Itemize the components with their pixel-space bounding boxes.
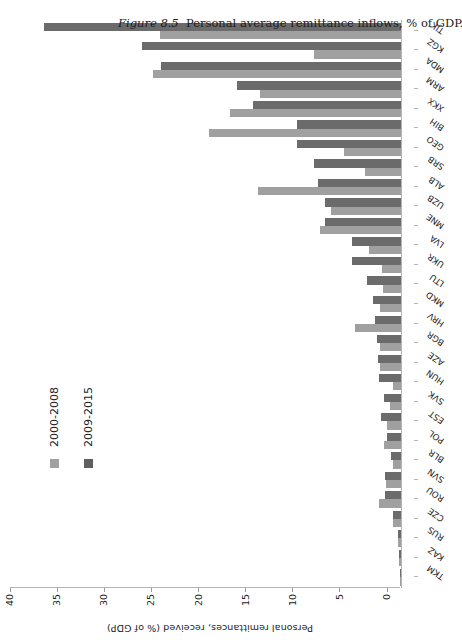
bar-HRV-2000-2008 bbox=[355, 324, 401, 332]
bar-MKD-2009-2015 bbox=[373, 296, 401, 304]
bar-POL-2009-2015 bbox=[387, 433, 401, 441]
x-tick-HRV bbox=[414, 323, 418, 324]
bar-group bbox=[24, 275, 401, 295]
axes: 0510152025303540 TKMKAZRUSCZEROUSVNBLRPO… bbox=[10, 18, 414, 618]
figure-caption-body: Personal average remittance inflows, % o… bbox=[186, 16, 462, 30]
y-axis-ticks: 0510152025303540 bbox=[10, 588, 400, 618]
bar-MNE-2009-2015 bbox=[325, 218, 401, 226]
x-tick-AZE bbox=[414, 362, 418, 363]
x-tick-EST bbox=[414, 420, 418, 421]
x-tick-BLR bbox=[414, 459, 418, 460]
bar-UZB-2000-2008 bbox=[331, 207, 401, 215]
bar-BIH-2000-2008 bbox=[209, 129, 401, 137]
bar-LTU-2000-2008 bbox=[383, 285, 401, 293]
figure-caption-text: Figure 8.5 Personal average remittance i… bbox=[118, 16, 462, 30]
bar-group bbox=[24, 528, 401, 548]
bar-HUN-2009-2015 bbox=[379, 374, 401, 382]
x-tick-LVA bbox=[414, 244, 418, 245]
bar-KGZ-2000-2008 bbox=[314, 51, 401, 59]
bar-group bbox=[24, 197, 401, 217]
bar-group bbox=[24, 216, 401, 236]
bar-group bbox=[24, 333, 401, 353]
x-tick-MNE bbox=[414, 225, 418, 226]
x-tick-SRB bbox=[414, 166, 418, 167]
bar-ALB-2009-2015 bbox=[318, 179, 401, 187]
bar-ARM-2000-2008 bbox=[260, 90, 401, 98]
bar-ROU-2009-2015 bbox=[385, 491, 401, 499]
bar-group bbox=[24, 548, 401, 568]
y-tick-10: 10 bbox=[293, 588, 294, 618]
bar-group bbox=[24, 60, 401, 80]
x-tick-ROU bbox=[414, 498, 418, 499]
x-tick-BIH bbox=[414, 127, 418, 128]
bar-MNE-2000-2008 bbox=[320, 226, 401, 234]
x-tick-UZB bbox=[414, 205, 418, 206]
bar-KGZ-2009-2015 bbox=[142, 42, 401, 50]
y-axis-title: Personal remittances, received (% of GDP… bbox=[0, 620, 420, 636]
bar-SVK-2000-2008 bbox=[390, 402, 401, 410]
y-tick-25: 25 bbox=[151, 588, 152, 618]
bar-group bbox=[24, 509, 401, 529]
x-tick-RUS bbox=[414, 537, 418, 538]
bar-group bbox=[24, 119, 401, 139]
y-tick-15: 15 bbox=[246, 588, 247, 618]
bar-SRB-2000-2008 bbox=[365, 168, 401, 176]
bar-ALB-2000-2008 bbox=[258, 187, 401, 195]
bar-LVA-2009-2015 bbox=[352, 237, 401, 245]
bar-BGR-2000-2008 bbox=[380, 343, 401, 351]
bar-group bbox=[24, 80, 401, 100]
y-axis-title-text: Personal remittances, received (% of GDP… bbox=[107, 623, 313, 634]
bar-MKD-2000-2008 bbox=[380, 304, 401, 312]
bar-MDA-2009-2015 bbox=[161, 62, 401, 70]
bar-UZB-2009-2015 bbox=[325, 198, 401, 206]
x-tick-CZE bbox=[414, 518, 418, 519]
legend-item-1: 2009-2015 bbox=[78, 387, 96, 468]
bar-GEO-2009-2015 bbox=[297, 140, 401, 148]
bar-XKX-2000-2008 bbox=[230, 109, 401, 117]
bar-CZE-2000-2008 bbox=[393, 519, 401, 527]
rotated-figure-stage: Personal remittances, received (% of GDP… bbox=[0, 0, 462, 640]
bar-group bbox=[24, 294, 401, 314]
figure-caption-prefix: Figure 8.5 bbox=[118, 16, 179, 30]
chart-plot-area: Personal remittances, received (% of GDP… bbox=[0, 0, 462, 640]
bar-ROU-2000-2008 bbox=[379, 499, 401, 507]
figure-caption: Figure 8.5 Personal average remittance i… bbox=[0, 6, 462, 30]
bar-BLR-2009-2015 bbox=[391, 452, 401, 460]
bar-group bbox=[24, 99, 401, 119]
x-tick-TKM bbox=[414, 576, 418, 577]
x-axis-category-labels: TKMKAZRUSCZEROUSVNBLRPOLESTSVKHUNAZEBGRH… bbox=[401, 21, 414, 587]
bar-BLR-2000-2008 bbox=[393, 460, 401, 468]
bar-group bbox=[24, 177, 401, 197]
legend-label-1: 2009-2015 bbox=[82, 387, 95, 447]
bar-SVN-2009-2015 bbox=[385, 472, 401, 480]
x-tick-KAZ bbox=[414, 557, 418, 558]
x-tick-POL bbox=[414, 440, 418, 441]
bar-LVA-2000-2008 bbox=[369, 246, 401, 254]
legend-label-0: 2000-2008 bbox=[48, 387, 61, 447]
bar-group bbox=[24, 138, 401, 158]
bar-group bbox=[24, 353, 401, 373]
x-tick-ALB bbox=[414, 186, 418, 187]
bar-HRV-2009-2015 bbox=[375, 316, 401, 324]
bar-group bbox=[24, 158, 401, 178]
chart-legend: 2000-2008 2009-2015 bbox=[44, 387, 112, 468]
bar-UKR-2000-2008 bbox=[382, 265, 401, 273]
bar-group bbox=[24, 41, 401, 61]
bar-ARM-2009-2015 bbox=[237, 81, 401, 89]
x-tick-LTU bbox=[414, 283, 418, 284]
legend-item-0: 2000-2008 bbox=[44, 387, 62, 468]
bar-SRB-2009-2015 bbox=[314, 159, 401, 167]
bar-AZE-2009-2015 bbox=[378, 355, 401, 363]
bar-BGR-2009-2015 bbox=[377, 335, 402, 343]
bar-group bbox=[24, 314, 401, 334]
bar-GEO-2000-2008 bbox=[344, 148, 401, 156]
y-tick-35: 35 bbox=[57, 588, 58, 618]
bar-UKR-2009-2015 bbox=[352, 257, 401, 265]
bar-CZE-2009-2015 bbox=[393, 511, 401, 519]
y-tick-30: 30 bbox=[104, 588, 105, 618]
bar-POL-2000-2008 bbox=[384, 441, 401, 449]
bar-group bbox=[24, 236, 401, 256]
legend-swatch-icon-0 bbox=[50, 459, 59, 468]
x-tick-HUN bbox=[414, 381, 418, 382]
bar-BIH-2009-2015 bbox=[297, 120, 401, 128]
